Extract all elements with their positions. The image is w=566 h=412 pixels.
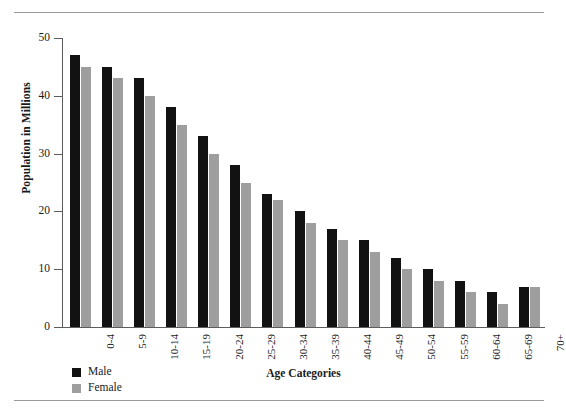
- bar-female: [241, 183, 251, 328]
- bar-group: [423, 26, 444, 327]
- legend-swatch-male: [72, 368, 81, 377]
- y-axis-tick: [54, 154, 63, 155]
- bottom-divider-rule: [14, 400, 544, 401]
- bar-group: [262, 26, 283, 327]
- y-axis-tick-label: 20: [22, 205, 50, 217]
- legend-item-male: Male: [72, 364, 122, 380]
- legend-label: Female: [88, 382, 122, 394]
- bar-female: [338, 240, 348, 327]
- chart-legend: MaleFemale: [72, 364, 122, 396]
- bar-group: [102, 26, 123, 327]
- bar-male: [230, 165, 240, 327]
- y-axis-tick-label: 0: [22, 321, 50, 333]
- bar-group: [70, 26, 91, 327]
- bar-group: [230, 26, 251, 327]
- y-axis-title: Population in Millions: [20, 58, 32, 218]
- x-axis-title: Age Categories: [62, 367, 545, 379]
- bar-male: [102, 67, 112, 327]
- bar-group: [391, 26, 412, 327]
- y-axis-tick-label: 30: [22, 148, 50, 160]
- bar-group: [134, 26, 155, 327]
- bar-male: [359, 240, 369, 327]
- y-axis-tick: [54, 96, 63, 97]
- bar-male: [198, 136, 208, 327]
- bar-female: [209, 154, 219, 327]
- bar-female: [466, 292, 476, 327]
- bar-female: [145, 96, 155, 327]
- bar-male: [391, 258, 401, 327]
- bar-male: [262, 194, 272, 327]
- bar-group: [455, 26, 476, 327]
- y-axis-tick: [54, 211, 63, 212]
- bar-female: [306, 223, 316, 327]
- bar-series-container: [63, 26, 545, 328]
- bar-male: [423, 269, 433, 327]
- bar-male: [455, 281, 465, 327]
- bar-group: [359, 26, 380, 327]
- y-axis-tick-label: 40: [22, 90, 50, 102]
- bar-group: [487, 26, 508, 327]
- y-axis-tick: [54, 38, 63, 39]
- bar-male: [70, 55, 80, 327]
- plot-area: 01020304050 0-45-910-1415-1920-2425-2930…: [62, 26, 545, 316]
- bar-female: [498, 304, 508, 327]
- bar-male: [134, 78, 144, 327]
- bar-male: [327, 229, 337, 327]
- bar-female: [177, 125, 187, 327]
- bar-group: [327, 26, 348, 327]
- bar-female: [402, 269, 412, 327]
- y-axis-tick-label: 10: [22, 263, 50, 275]
- bar-group: [198, 26, 219, 327]
- bar-group: [519, 26, 540, 327]
- bar-female: [530, 287, 540, 327]
- bar-male: [295, 211, 305, 327]
- legend-label: Male: [88, 366, 112, 378]
- y-axis-tick: [54, 269, 63, 270]
- bar-male: [166, 107, 176, 327]
- bar-group: [295, 26, 316, 327]
- bar-female: [434, 281, 444, 327]
- legend-swatch-female: [72, 384, 81, 393]
- bar-group: [166, 26, 187, 327]
- bar-chart-figure: Population in Millions 01020304050 0-45-…: [0, 12, 558, 400]
- y-axis-tick-label: 50: [22, 32, 50, 44]
- bar-male: [487, 292, 497, 327]
- y-axis-tick: [54, 327, 63, 328]
- bar-female: [370, 252, 380, 327]
- bar-female: [81, 67, 91, 327]
- bar-male: [519, 287, 529, 327]
- x-axis-tick-label: 70+: [555, 334, 566, 386]
- bar-female: [273, 200, 283, 327]
- bar-female: [113, 78, 123, 327]
- legend-item-female: Female: [72, 380, 122, 396]
